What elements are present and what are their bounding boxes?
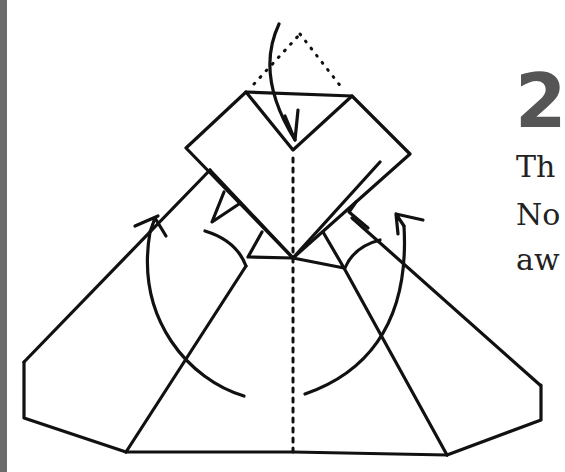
instruction-line-3: aw: [516, 245, 560, 275]
fold-arrow-top: [270, 24, 295, 140]
instruction-line-2: No: [516, 200, 560, 230]
right-wing-top-edge: [352, 218, 540, 385]
right-panel-band: [345, 240, 380, 268]
right-wing-outline: [447, 385, 541, 455]
dotted-fold-top-left: [254, 34, 300, 84]
top-flap-inner-v: [246, 92, 352, 150]
instruction-line-1: Th: [516, 152, 555, 182]
step-number: 2: [515, 64, 565, 138]
left-panel-band: [205, 231, 246, 266]
dotted-fold-top-right: [300, 34, 342, 88]
left-wing-top-edge: [24, 170, 210, 362]
left-wing-outline: [24, 362, 126, 452]
bottom-edge: [126, 452, 447, 455]
fold-arrow-right-head: [396, 214, 423, 234]
fold-arrow-left: [147, 232, 244, 396]
